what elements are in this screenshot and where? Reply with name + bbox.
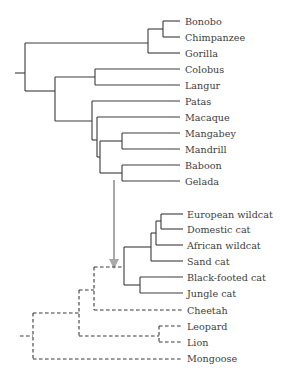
leaf-label-lion: Lion [187, 337, 208, 348]
leaf-label-sand-cat: Sand cat [187, 256, 230, 267]
leaf-label-langur: Langur [185, 80, 221, 91]
leaf-label-chimpanzee: Chimpanzee [185, 32, 245, 43]
leaf-label-mangabey: Mangabey [185, 128, 236, 139]
carnivore-tree [20, 214, 183, 359]
leaf-label-leopard: Leopard [187, 321, 227, 332]
leaf-label-jungle-cat: Jungle cat [186, 288, 236, 299]
leaf-label-domestic-cat: Domestic cat [187, 224, 251, 235]
leaf-label-mongoose: Mongoose [187, 353, 237, 364]
down-arrow-icon [109, 180, 119, 269]
leaf-label-patas: Patas [185, 96, 211, 107]
leaf-label-gorilla: Gorilla [185, 48, 218, 59]
primate-tree [15, 21, 180, 181]
leaf-label-european-wildcat: European wildcat [187, 209, 273, 220]
leaf-label-gelada: Gelada [185, 176, 219, 187]
phylogeny-diagram: Bonobo Chimpanzee Gorilla Colobus Langur… [0, 0, 282, 383]
leaf-label-colobus: Colobus [185, 64, 224, 75]
leaf-label-macaque: Macaque [185, 112, 230, 123]
leaf-label-baboon: Baboon [185, 160, 222, 171]
leaf-label-cheetah: Cheetah [187, 305, 228, 316]
carnivore-labels: European wildcat Domestic cat African wi… [186, 209, 273, 365]
leaf-label-african-wildcat: African wildcat [186, 240, 261, 251]
leaf-label-mandrill: Mandrill [185, 144, 227, 155]
leaf-label-black-footed-cat: Black-footed cat [187, 272, 266, 283]
primate-labels: Bonobo Chimpanzee Gorilla Colobus Langur… [185, 16, 245, 187]
leaf-label-bonobo: Bonobo [185, 16, 222, 27]
